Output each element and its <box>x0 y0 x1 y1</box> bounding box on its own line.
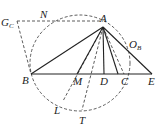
label-d: D <box>99 75 108 87</box>
line-a-c-dashed <box>103 27 124 74</box>
segment-am <box>77 27 103 74</box>
label-ob-sub: B <box>137 44 142 52</box>
label-c: C <box>121 75 129 87</box>
geometry-diagram: A B M D C E N L T GC OB <box>0 0 165 132</box>
label-ob: OB <box>129 38 142 52</box>
label-t: T <box>79 114 86 126</box>
label-b: B <box>22 74 29 86</box>
label-e: E <box>147 75 155 87</box>
line-gc-b <box>17 21 31 74</box>
label-l: L <box>53 104 60 116</box>
label-ob-main: O <box>129 38 137 50</box>
label-gc-sub: C <box>9 22 14 30</box>
label-n: N <box>39 8 48 20</box>
segment-ab <box>31 27 103 74</box>
label-m: M <box>72 75 83 87</box>
segment-ad <box>103 27 104 74</box>
label-a: A <box>99 12 107 24</box>
label-gc: GC <box>1 16 14 30</box>
label-gc-main: G <box>1 16 9 28</box>
line-a-t <box>82 27 103 110</box>
